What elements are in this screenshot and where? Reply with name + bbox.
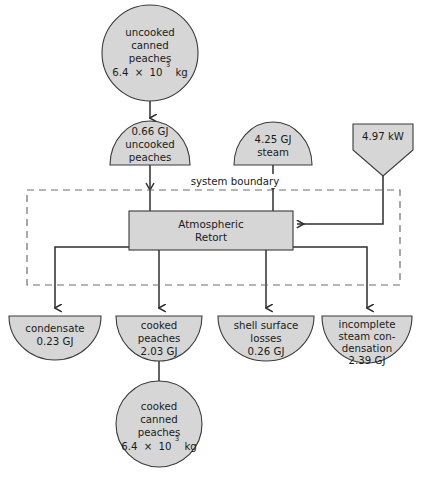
value-mantissa-2: 6.4 <box>121 441 137 452</box>
node-incomplete-steam-condensation-line3: densation <box>342 343 392 354</box>
flow-diagram: system boundary uncooked canned peaches … <box>0 0 422 479</box>
connector-power-to-retort <box>297 175 383 224</box>
node-shell-surface-losses-line2: losses <box>250 333 281 344</box>
node-steam-line1: 4.25 GJ <box>255 134 292 145</box>
node-cooked-canned-peaches-line1: cooked <box>141 401 177 412</box>
node-uncooked-peaches-energy-line2: uncooked <box>125 139 174 150</box>
node-incomplete-steam-condensation-line4: 2.39 GJ <box>349 355 386 366</box>
node-shell-surface-losses-line3: 0.26 GJ <box>248 346 285 357</box>
diagram-canvas: system boundary uncooked canned peaches … <box>0 0 422 479</box>
value-times-2: × <box>144 441 153 452</box>
node-uncooked-canned-peaches-line2: canned <box>131 40 169 51</box>
value-unit-2: kg <box>184 441 196 452</box>
node-electric-power-value: 4.97 kW <box>362 131 404 142</box>
value-exponent-1: 3 <box>166 61 170 69</box>
node-incomplete-steam-condensation-line1: incomplete <box>339 319 396 330</box>
node-atmospheric-retort-line1: Atmospheric <box>178 218 244 230</box>
value-times-1: × <box>135 67 144 78</box>
node-uncooked-peaches-energy-line1: 0.66 GJ <box>132 126 169 137</box>
node-condensate-line2: 0.23 GJ <box>37 336 74 347</box>
connector-retort-to-condensate <box>55 247 129 308</box>
node-shell-surface-losses-line1: shell surface <box>234 320 299 331</box>
value-unit-1: kg <box>175 67 187 78</box>
node-steam-line2: steam <box>257 147 289 158</box>
node-uncooked-canned-peaches-line1: uncooked <box>125 27 174 38</box>
node-cooked-peaches-line1: cooked <box>141 320 177 331</box>
value-exponent-2: 3 <box>175 435 179 443</box>
node-condensate-line1: condensate <box>25 323 84 334</box>
value-base-2: 10 <box>158 441 171 452</box>
node-cooked-canned-peaches-line2: canned <box>140 414 178 425</box>
value-mantissa-1: 6.4 <box>112 67 128 78</box>
value-base-1: 10 <box>149 67 162 78</box>
node-uncooked-peaches-energy-line3: peaches <box>129 152 172 163</box>
node-atmospheric-retort-line2: Retort <box>195 231 227 243</box>
system-boundary-label: system boundary <box>191 176 280 187</box>
node-incomplete-steam-condensation-line2: steam con- <box>339 331 396 342</box>
node-cooked-peaches-line2: peaches <box>138 333 181 344</box>
connector-retort-to-incomplete-condensation <box>293 247 367 308</box>
node-cooked-peaches-line3: 2.03 GJ <box>141 346 178 357</box>
